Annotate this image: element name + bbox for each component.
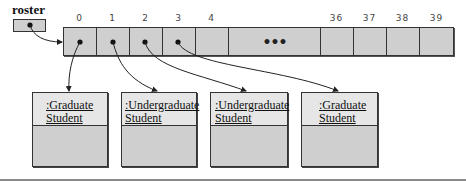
roster-variable-box — [13, 19, 46, 32]
bottom-divider — [0, 179, 466, 181]
roster-label: roster — [12, 2, 45, 18]
index-label-2: 2 — [129, 13, 162, 23]
object-name-compartment: :Graduate Student — [33, 93, 107, 126]
roster-array: ••• — [63, 27, 454, 56]
array-cell-38 — [387, 28, 420, 55]
array-cell-37 — [354, 28, 387, 55]
array-cell-2 — [130, 28, 163, 55]
object-class-line2: Student — [46, 112, 107, 125]
array-cell-0 — [64, 28, 97, 55]
index-label-0: 0 — [63, 13, 96, 23]
index-label-38: 38 — [386, 13, 419, 23]
array-cell-36 — [321, 28, 354, 55]
ellipsis-icon: ••• — [229, 34, 320, 50]
student-object-0: :Graduate Student — [32, 92, 108, 167]
index-label-36: 36 — [320, 13, 353, 23]
object-class-line2: Student — [319, 112, 377, 125]
student-object-3: :Graduate Student — [301, 92, 378, 167]
array-cell-3 — [163, 28, 196, 55]
object-class-line2: Student — [215, 112, 287, 125]
index-label-37: 37 — [353, 13, 386, 23]
student-object-2: :Undergraduate Student — [210, 92, 288, 167]
student-object-1: :Undergraduate Student — [121, 92, 197, 167]
array-cell-ellipsis: ••• — [229, 28, 321, 55]
index-label-4: 4 — [195, 13, 228, 23]
object-name-compartment: :Undergraduate Student — [211, 93, 287, 126]
array-cell-4 — [196, 28, 229, 55]
index-label-1: 1 — [96, 13, 129, 23]
index-label-3: 3 — [162, 13, 195, 23]
object-name-compartment: :Graduate Student — [302, 93, 377, 126]
object-class-line2: Student — [125, 112, 196, 125]
object-name-compartment: :Undergraduate Student — [122, 93, 196, 126]
array-cell-39 — [420, 28, 453, 55]
array-cell-1 — [97, 28, 130, 55]
index-label-39: 39 — [419, 13, 454, 23]
